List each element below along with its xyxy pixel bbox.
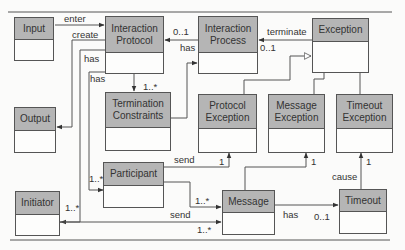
label-mult-protocol-exception: 1 (219, 157, 224, 167)
class-interaction-process[interactable]: Interaction Process (198, 16, 258, 74)
label-has-timeout: has (283, 210, 298, 220)
class-name: Initiator (16, 192, 59, 215)
label-create: create (72, 30, 98, 40)
label-mult-initiator: 1..* (65, 203, 79, 213)
class-name: Input (15, 18, 53, 40)
class-initiator[interactable]: Initiator (15, 191, 60, 236)
label-mult-termination: 1..* (143, 82, 157, 92)
class-name: Interaction Protocol (106, 17, 163, 53)
class-termination-constraints[interactable]: Termination Constraints (105, 92, 171, 151)
class-name: Message (223, 191, 274, 213)
class-timeout[interactable]: Timeout (339, 189, 387, 234)
class-name: Timeout (340, 190, 386, 212)
class-timeout-exception[interactable]: Timeout Exception (336, 94, 393, 153)
label-send-message: send (170, 210, 191, 220)
label-mult-message-exception: 1 (311, 157, 316, 167)
label-has-process: has (180, 43, 195, 53)
class-message-exception[interactable]: Message Exception (268, 94, 325, 153)
class-name: Timeout Exception (337, 95, 392, 129)
label-mult-timeout-exception: 1 (366, 157, 371, 167)
label-send-protocol-exception: send (174, 155, 195, 165)
label-has-participant: has (90, 74, 105, 84)
label-mult-protocol: 0..1 (173, 27, 189, 37)
class-input[interactable]: Input (14, 17, 54, 61)
label-mult-message-1: 1..* (195, 196, 209, 206)
label-has-initiator: has (84, 54, 99, 64)
class-name: Interaction Process (199, 17, 257, 53)
class-name: Participant (104, 163, 163, 186)
uml-diagram: Input Interaction Protocol Interaction P… (0, 0, 405, 250)
label-mult-participant: 1..* (89, 174, 103, 184)
label-mult-timeout: 0..1 (314, 212, 330, 222)
class-name: Output (15, 108, 55, 131)
class-participant[interactable]: Participant (103, 162, 164, 208)
class-exception[interactable]: Exception (312, 18, 369, 73)
class-interaction-protocol[interactable]: Interaction Protocol (105, 16, 164, 74)
label-mult-process: 0..1 (260, 43, 276, 53)
class-name: Message Exception (269, 95, 324, 129)
label-terminate: terminate (267, 27, 307, 37)
class-name: Termination Constraints (106, 93, 170, 128)
class-name: Protocol Exception (199, 95, 256, 129)
class-name: Exception (313, 19, 368, 42)
label-mult-message-2: 1..* (197, 225, 211, 235)
label-cause: cause (332, 172, 357, 182)
label-enter: enter (64, 14, 86, 24)
class-output[interactable]: Output (14, 107, 56, 153)
class-protocol-exception[interactable]: Protocol Exception (198, 94, 257, 153)
class-message[interactable]: Message (222, 190, 275, 235)
